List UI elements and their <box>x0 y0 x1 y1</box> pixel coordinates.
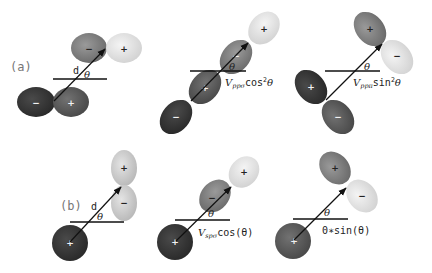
distance-label: d <box>73 65 79 76</box>
lobe-sign: − <box>172 112 180 122</box>
lobe-sign: + <box>120 163 128 173</box>
lobe-sign: + <box>307 82 315 92</box>
panel-a: (a) − + − + d θ <box>10 5 420 140</box>
s-orbital: + <box>52 225 88 261</box>
upper-p-orbital: − + <box>213 5 286 80</box>
p-orbital: − + <box>193 150 266 219</box>
p-orbital: + − <box>111 150 137 221</box>
formula-body: cos <box>245 77 263 88</box>
lobe-sign: − <box>358 191 366 201</box>
formula-suffix: θ <box>267 77 273 88</box>
lobe-sign: + <box>171 237 179 247</box>
lobe-sign: + <box>120 44 128 54</box>
bond-vector-arrow <box>70 187 121 242</box>
formula-suffix: θ <box>395 77 401 88</box>
diagram-pp-reference: − + − + d θ <box>17 33 142 117</box>
upper-p-orbital: − + <box>71 33 142 63</box>
lobe-sign: + <box>67 98 75 108</box>
angle-label: θ <box>324 207 330 218</box>
hopping-formula: Vppσcos2θ <box>225 76 273 90</box>
lobe-sign: − <box>32 98 40 108</box>
formula-body: cos(θ) <box>217 227 253 238</box>
lobe-sign: + <box>366 24 374 34</box>
upper-p-orbital: + − <box>347 5 420 80</box>
angle-label: θ <box>229 61 235 72</box>
bond-vector-arrow <box>326 44 382 100</box>
formula-subscript: spσ <box>205 232 217 240</box>
formula-body: sin <box>373 77 391 88</box>
panel-a-label: (a) <box>10 60 32 74</box>
formula-subscript: ppπ <box>360 82 373 90</box>
lobe-sign: − <box>85 44 93 54</box>
lobe-sign: + <box>331 163 339 173</box>
angle-label: θ <box>208 208 214 219</box>
diagram-pp-sigma: − + − + θ Vppσcos2θ <box>153 5 286 140</box>
diagram-sp-sigma: + − + θ Vspσcos(θ) <box>157 150 266 260</box>
hopping-formula: Vspσcos(θ) <box>198 227 253 240</box>
diagram-sp-perpendicular: + + − θ 0∗sin(θ) <box>275 145 384 259</box>
lobe-sign: − <box>393 51 401 61</box>
lobe-sign: − <box>334 112 342 122</box>
hopping-formula: 0∗sin(θ) <box>322 225 370 236</box>
lower-p-orbital: − + <box>17 87 89 117</box>
panel-b-label: (b) <box>60 199 82 213</box>
lobe-sign: + <box>240 167 248 177</box>
lobe-sign: − <box>120 198 128 208</box>
lower-p-orbital: + − <box>288 63 361 140</box>
formula-subscript: ppσ <box>232 82 245 90</box>
panel-b: (b) + + − d θ + <box>52 145 384 261</box>
hopping-formula: Vppπsin2θ <box>353 76 401 90</box>
lobe-sign: − <box>208 193 216 203</box>
angle-label: θ <box>97 211 103 222</box>
bond-vector-arrow <box>191 43 248 101</box>
orbital-overlap-diagram: (a) − + − + d θ <box>0 0 432 273</box>
angle-label: θ <box>84 69 90 80</box>
diagram-pp-pi: + − + − θ Vppπsin2θ <box>288 5 420 140</box>
lobe-sign: + <box>260 24 268 34</box>
angle-label: θ <box>364 61 370 72</box>
